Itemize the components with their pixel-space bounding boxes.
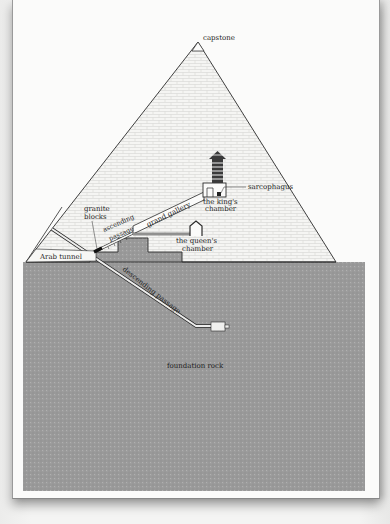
pyramid-body: [26, 42, 336, 262]
page-background: capstone Arab tunnel: [0, 0, 390, 524]
queens-chamber-label-line1: the queen's: [176, 237, 217, 245]
sarcophagus-label: sarcophagus: [248, 183, 293, 191]
arab-tunnel-label: Arab tunnel: [39, 253, 83, 261]
pyramid-cross-section-diagram: capstone Arab tunnel: [0, 0, 390, 524]
capstone: [192, 42, 204, 51]
queens-chamber-label-line2: chamber: [182, 245, 214, 253]
foundation-rock-label: foundation rock: [167, 362, 224, 370]
kings-chamber-label-line2: chamber: [205, 205, 237, 213]
granite-blocks-label-line1: granite: [84, 205, 110, 213]
sarcophagus: [217, 192, 221, 196]
capstone-label: capstone: [203, 34, 235, 42]
granite-blocks-label-line2: blocks: [84, 213, 107, 221]
